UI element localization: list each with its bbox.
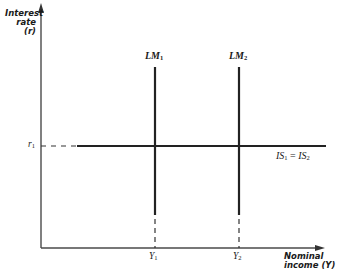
diagram-canvas xyxy=(0,0,338,275)
y2-sub: 2 xyxy=(238,254,241,261)
r1-sub: 1 xyxy=(32,142,35,149)
is-label-main2: IS xyxy=(298,150,306,161)
r1-tick-label: r1 xyxy=(28,140,35,150)
is-label-sub2: 2 xyxy=(307,154,310,161)
x-axis-title-line2: income (Y) xyxy=(284,261,335,270)
lm1-label-main: LM xyxy=(145,50,160,61)
is-label: IS1 = IS2 xyxy=(276,151,310,162)
y1-sub: 1 xyxy=(154,254,157,261)
lm2-label-main: LM xyxy=(229,50,244,61)
lm1-label: LM1 xyxy=(145,51,163,62)
is-label-equals: = xyxy=(288,150,299,161)
y1-tick-label: Y1 xyxy=(149,252,158,262)
y-axis-title: Interest rate (r) xyxy=(5,9,36,36)
lm2-label: LM2 xyxy=(229,51,247,62)
lm2-label-sub: 2 xyxy=(244,54,247,61)
lm1-label-sub: 1 xyxy=(160,54,163,61)
y-axis-title-line2: rate (r) xyxy=(5,18,36,36)
x-axis-title: Nominal income (Y) xyxy=(284,252,335,270)
y2-tick-label: Y2 xyxy=(233,252,242,262)
